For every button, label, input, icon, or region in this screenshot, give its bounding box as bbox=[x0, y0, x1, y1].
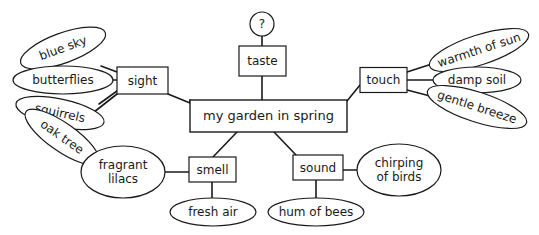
node-label-fresh-air: fresh air bbox=[188, 205, 238, 219]
node-label-touch: touch bbox=[367, 73, 401, 87]
node-label-sight: sight bbox=[128, 73, 158, 87]
node-central-my-garden-in-spring[interactable]: my garden in spring bbox=[190, 100, 347, 132]
node-leaf-butterflies[interactable]: butterflies bbox=[13, 66, 113, 94]
node-branch-taste[interactable]: taste bbox=[239, 46, 286, 76]
edge-touch-to-central bbox=[347, 85, 360, 101]
node-label-my-garden-in-spring: my garden in spring bbox=[203, 108, 334, 123]
node-branch-sound[interactable]: sound bbox=[293, 155, 343, 180]
node-branch-smell[interactable]: smell bbox=[189, 157, 236, 182]
nodes-layer: my garden in spring?sightblue skybutterf… bbox=[13, 12, 533, 226]
node-leaf-hum-of-bees[interactable]: hum of bees bbox=[268, 198, 364, 226]
node-branch-touch[interactable]: touch bbox=[360, 68, 407, 93]
node-unknown-placeholder[interactable]: ? bbox=[250, 12, 274, 36]
edge-sight-to-central bbox=[168, 94, 190, 103]
node-label-damp-soil: damp soil bbox=[448, 73, 506, 87]
question-mark-icon: ? bbox=[259, 17, 265, 31]
node-leaf-fresh-air[interactable]: fresh air bbox=[170, 198, 256, 226]
mindmap-canvas: my garden in spring?sightblue skybutterf… bbox=[0, 0, 539, 235]
node-branch-sight[interactable]: sight bbox=[117, 67, 168, 94]
node-label-butterflies: butterflies bbox=[32, 73, 93, 87]
node-leaf-chirping-of-birds[interactable]: chirpingof birds bbox=[357, 144, 441, 196]
edge-central-to-sound bbox=[274, 132, 296, 155]
node-label-hum-of-bees: hum of bees bbox=[279, 205, 354, 219]
node-label-sound: sound bbox=[300, 160, 336, 174]
mindmap-diagram: my garden in spring?sightblue skybutterf… bbox=[0, 0, 539, 235]
node-label-chirping-of-birds: chirpingof birds bbox=[375, 156, 424, 184]
node-label-taste: taste bbox=[247, 54, 277, 68]
edge-central-to-smell bbox=[213, 132, 237, 157]
node-leaf-fragrant-lilacs[interactable]: fragrantlilacs bbox=[81, 146, 165, 198]
node-label-smell: smell bbox=[197, 162, 229, 176]
